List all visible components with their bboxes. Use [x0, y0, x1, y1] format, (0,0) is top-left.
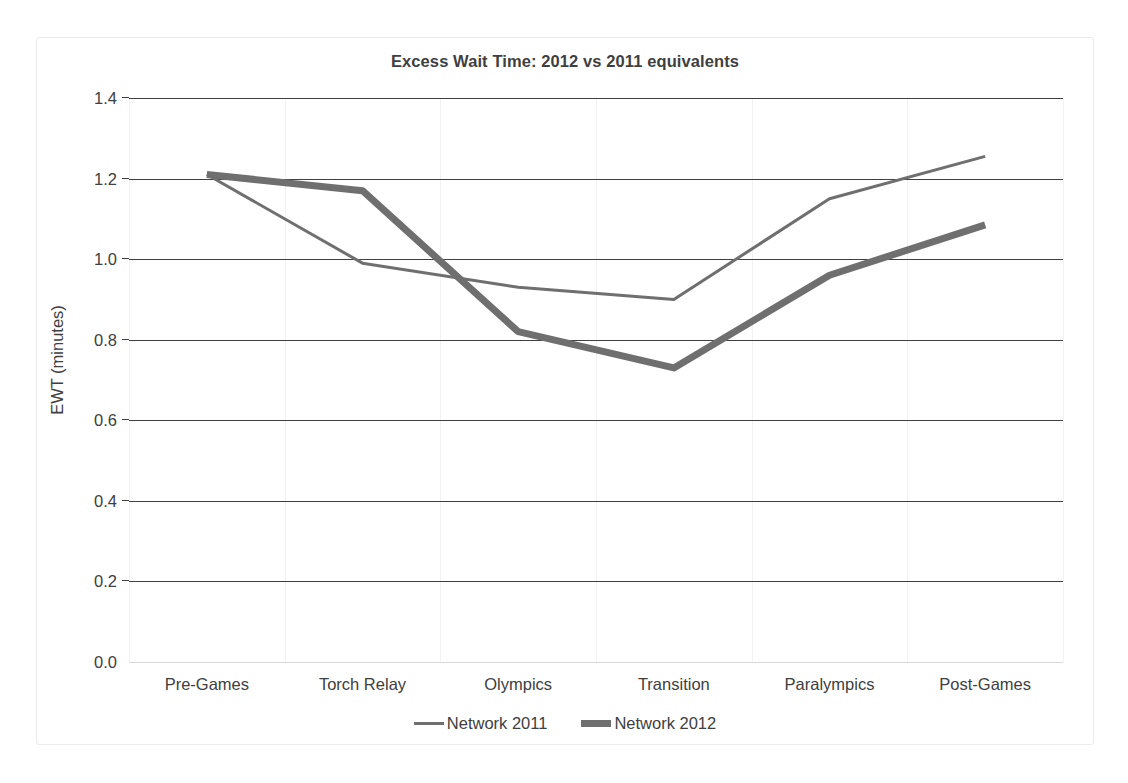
y-tick-mark — [122, 178, 129, 179]
category-separator — [1063, 98, 1064, 662]
y-tick-mark — [122, 97, 129, 98]
y-tick-label: 1.0 — [94, 250, 117, 269]
series-line — [207, 175, 985, 368]
x-tick-label: Paralympics — [785, 675, 875, 694]
y-tick-mark — [122, 500, 129, 501]
chart-container: Excess Wait Time: 2012 vs 2011 equivalen… — [36, 37, 1094, 745]
x-tick-label: Torch Relay — [319, 675, 406, 694]
legend-line-swatch-icon — [581, 720, 611, 727]
y-tick-label: 0.4 — [94, 491, 117, 510]
legend-item[interactable]: Network 2012 — [581, 714, 716, 733]
y-tick-mark — [122, 339, 129, 340]
y-tick-label: 0.2 — [94, 572, 117, 591]
series-line — [207, 156, 985, 299]
y-tick-label: 0.0 — [94, 653, 117, 672]
legend-label: Network 2012 — [614, 714, 716, 733]
chart-legend: Network 2011Network 2012 — [37, 714, 1093, 733]
x-tick-label: Post-Games — [939, 675, 1031, 694]
y-tick-label: 0.8 — [94, 330, 117, 349]
y-tick-label: 1.4 — [94, 89, 117, 108]
legend-item[interactable]: Network 2011 — [414, 714, 548, 733]
y-tick-mark — [122, 419, 129, 420]
y-axis-title: EWT (minutes) — [48, 305, 67, 415]
x-tick-label: Pre-Games — [165, 675, 249, 694]
legend-line-swatch-icon — [414, 722, 444, 725]
y-tick-label: 1.2 — [94, 169, 117, 188]
gridline-0.0 — [129, 662, 1063, 663]
plot-area: 0.00.20.40.60.81.01.21.4 Pre-GamesTorch … — [129, 98, 1063, 662]
y-tick-label: 0.6 — [94, 411, 117, 430]
series-lines — [129, 98, 1063, 662]
legend-label: Network 2011 — [447, 714, 548, 733]
y-tick-mark — [122, 580, 129, 581]
chart-title: Excess Wait Time: 2012 vs 2011 equivalen… — [37, 52, 1093, 71]
x-tick-label: Transition — [638, 675, 710, 694]
y-tick-mark — [122, 258, 129, 259]
x-tick-label: Olympics — [484, 675, 552, 694]
